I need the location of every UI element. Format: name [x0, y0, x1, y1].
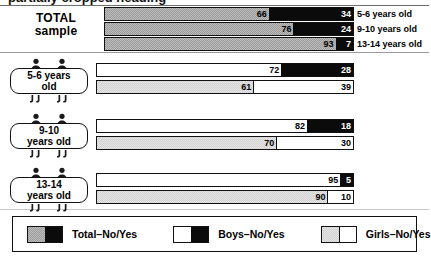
legend-label-total: Total–No/Yes: [72, 229, 137, 240]
legend-item-total: Total–No/Yes: [27, 226, 137, 243]
girls-bar-13-14-yes: 10: [327, 191, 353, 203]
total-age-label-9-10: 9-10 years old: [357, 25, 417, 34]
group-label-9-10-line2: years old: [27, 136, 71, 147]
legs-icon: [29, 150, 42, 158]
girls-bar-9-10-no: 70: [97, 137, 276, 149]
girls-bar-5-6-yes: 39: [253, 81, 353, 93]
group-label-13-14-line2: years old: [27, 190, 71, 201]
boys-bar-5-6-no: 72: [97, 64, 281, 76]
total-bar-5-6-yes: 34: [269, 8, 353, 20]
legend-swatch-boys-yes: [191, 227, 208, 242]
boys-bar-9-10-no: 82: [97, 120, 307, 132]
total-bar-13-14-no: 93: [105, 38, 336, 50]
divider-middle: [0, 52, 429, 53]
total-bar-5-6: 66 34: [104, 7, 354, 21]
total-bar-13-14: 93 7: [104, 37, 354, 51]
boys-bar-9-10-yes: 18: [307, 120, 353, 132]
girls-bar-5-6: 61 39: [96, 80, 354, 94]
legs-icon: [29, 95, 42, 103]
girls-bar-9-10: 70 30: [96, 136, 354, 150]
total-bar-9-10-yes: 24: [293, 23, 353, 35]
legs-icon: [56, 204, 69, 212]
group-label-box-5-6: 5-6 years old: [10, 68, 88, 94]
total-bar-9-10: 76 24: [104, 22, 354, 36]
boys-bar-9-10: 82 18: [96, 119, 354, 133]
total-bar-13-14-yes: 7: [336, 38, 353, 50]
boys-bar-13-14-no: 95: [97, 174, 340, 186]
legs-icons-9-10: [10, 150, 88, 159]
girls-bar-9-10-yes: 30: [276, 137, 353, 149]
legs-icon: [29, 204, 42, 212]
total-bar-9-10-no: 76: [105, 23, 293, 35]
boys-bar-13-14: 95 5: [96, 173, 354, 187]
total-age-label-13-14: 13-14 years old: [357, 40, 422, 49]
legend-label-girls: Girls–No/Yes: [366, 229, 431, 240]
boys-bar-13-14-yes: 5: [340, 174, 353, 186]
legend-swatch-boys: [173, 226, 209, 243]
group-label-9-10-line1: 9-10: [27, 125, 71, 136]
group-label-5-6-line2: old: [27, 81, 70, 92]
total-age-label-5-6: 5-6 years old: [357, 10, 412, 19]
legend-swatch-girls-yes: [339, 227, 356, 242]
boys-bar-5-6: 72 28: [96, 63, 354, 77]
legend-swatch-total-no: [28, 227, 45, 242]
group-label-box-13-14: 13-14 years old: [10, 177, 88, 203]
legend-item-girls: Girls–No/Yes: [321, 226, 431, 243]
boys-bar-5-6-yes: 28: [281, 64, 353, 76]
group-label-5-6-line1: 5-6 years: [27, 70, 70, 81]
legend-swatch-girls: [321, 226, 357, 243]
legend-swatch-boys-no: [174, 227, 191, 242]
girls-bar-5-6-no: 61: [97, 81, 253, 93]
total-sample-label: TOTAL sample: [12, 12, 100, 38]
legend-swatch-total: [27, 226, 63, 243]
girls-bar-13-14: 90 10: [96, 190, 354, 204]
group-label-13-14-line1: 13-14: [27, 179, 71, 190]
girls-bar-13-14-no: 90: [97, 191, 327, 203]
legs-icon: [56, 95, 69, 103]
group-label-box-9-10: 9-10 years old: [10, 123, 88, 149]
total-label-line2: sample: [12, 25, 100, 38]
legend-label-boys: Boys–No/Yes: [218, 229, 285, 240]
total-bar-5-6-no: 66: [105, 8, 269, 20]
divider-top: [0, 5, 429, 6]
legs-icons-13-14: [10, 204, 88, 213]
legs-icon: [56, 150, 69, 158]
legs-icons-5-6: [10, 95, 88, 104]
legend: Total–No/Yes Boys–No/Yes Girls–No/Yes: [12, 216, 417, 252]
legend-swatch-total-yes: [45, 227, 62, 242]
legend-item-boys: Boys–No/Yes: [173, 226, 285, 243]
legend-swatch-girls-no: [322, 227, 339, 242]
